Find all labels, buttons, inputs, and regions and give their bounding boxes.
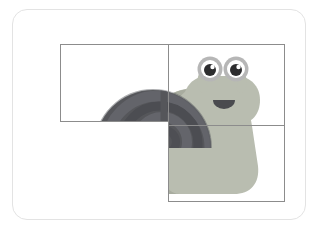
snail-illustration xyxy=(60,44,285,202)
puzzle-edge-top-right xyxy=(168,44,285,45)
puzzle-edge-top-left xyxy=(60,44,168,45)
puzzle-edge-right xyxy=(284,44,285,202)
puzzle-divider-center xyxy=(168,44,169,202)
puzzle-divider-mid-left xyxy=(60,121,168,122)
puzzle-divider-mid-right xyxy=(168,125,285,126)
puzzle-card xyxy=(12,9,306,220)
snail-left-eye xyxy=(198,57,223,82)
puzzle-artwork-clip xyxy=(60,44,285,202)
puzzle-board[interactable] xyxy=(60,44,285,202)
puzzle-edge-bottom xyxy=(168,201,285,202)
puzzle-edge-left xyxy=(60,44,61,122)
screenshot-root xyxy=(0,0,320,229)
snail-right-eye xyxy=(224,57,249,82)
